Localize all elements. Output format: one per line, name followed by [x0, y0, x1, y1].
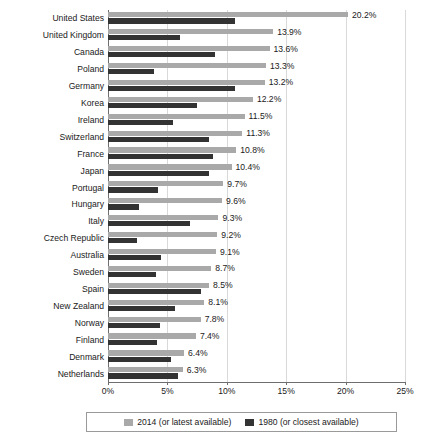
bar-series-2014: 12.2% — [108, 97, 253, 102]
bar-series-1980 — [108, 289, 201, 294]
bar-series-1980 — [108, 120, 173, 125]
bar-series-2014: 8.1% — [108, 300, 204, 305]
category-label: Japan — [81, 166, 104, 176]
chart-legend: 2014 (or latest available)1980 (or close… — [86, 412, 397, 432]
bar-value-label: 7.4% — [200, 331, 220, 341]
bar-value-label: 12.2% — [257, 94, 281, 104]
x-tick-mark — [227, 382, 228, 385]
bar-row: France10.8% — [108, 145, 405, 162]
bar-series-1980 — [108, 373, 178, 378]
bar-series-1980 — [108, 137, 209, 142]
category-label: France — [77, 149, 104, 159]
x-tick-label: 5% — [161, 386, 173, 396]
bar-value-label: 13.6% — [274, 44, 298, 54]
bar-row: Norway7.8% — [108, 314, 405, 331]
bar-row: Italy9.3% — [108, 213, 405, 230]
bar-series-2014: 7.8% — [108, 317, 201, 322]
category-label: New Zealand — [53, 301, 104, 311]
bar-chart: United States20.2%United Kingdom13.9%Can… — [0, 0, 435, 445]
bar-row: Korea12.2% — [108, 95, 405, 112]
x-tick-mark — [405, 382, 406, 385]
bar-series-2014: 6.3% — [108, 367, 183, 372]
bar-series-2014: 9.1% — [108, 249, 216, 254]
legend-swatch — [124, 419, 133, 426]
bar-series-1980 — [108, 69, 154, 74]
bar-value-label: 7.8% — [205, 314, 225, 324]
legend-label: 2014 (or latest available) — [137, 417, 231, 427]
category-label: Korea — [81, 98, 104, 108]
bar-series-2014: 10.4% — [108, 164, 232, 169]
bar-value-label: 8.5% — [213, 280, 233, 290]
bar-value-label: 20.2% — [352, 10, 376, 20]
bar-row: Switzerland11.3% — [108, 128, 405, 145]
bar-series-1980 — [108, 204, 139, 209]
bar-series-2014: 13.3% — [108, 63, 266, 68]
bar-series-1980 — [108, 187, 158, 192]
bar-series-2014: 7.4% — [108, 333, 196, 338]
legend-item[interactable]: 2014 (or latest available) — [124, 417, 231, 427]
bar-value-label: 11.5% — [249, 111, 273, 121]
bar-row: Germany13.2% — [108, 78, 405, 95]
x-axis-line — [108, 382, 405, 383]
bar-series-2014: 11.5% — [108, 114, 245, 119]
bar-value-label: 6.4% — [188, 348, 208, 358]
bar-series-1980 — [108, 221, 190, 226]
bar-series-1980 — [108, 238, 137, 243]
bar-row: Finland7.4% — [108, 331, 405, 348]
bar-series-1980 — [108, 171, 209, 176]
bar-series-2014: 8.7% — [108, 266, 211, 271]
category-label: Norway — [75, 318, 104, 328]
category-label: United States — [52, 13, 104, 23]
bar-value-label: 9.3% — [222, 213, 242, 223]
bar-value-label: 10.8% — [240, 145, 264, 155]
bar-series-2014: 13.9% — [108, 29, 273, 34]
bar-value-label: 8.7% — [215, 263, 235, 273]
category-label: Denmark — [69, 352, 104, 362]
bar-series-2014: 9.7% — [108, 181, 223, 186]
legend-item[interactable]: 1980 (or closest available) — [245, 417, 358, 427]
bar-value-label: 11.3% — [246, 128, 270, 138]
category-label: Netherlands — [58, 369, 104, 379]
bar-row: Hungary9.6% — [108, 196, 405, 213]
x-tick-label: 15% — [278, 386, 295, 396]
category-label: Switzerland — [60, 132, 104, 142]
bar-series-2014: 13.2% — [108, 80, 265, 85]
category-label: Poland — [77, 64, 104, 74]
bar-row: Australia9.1% — [108, 247, 405, 264]
bar-value-label: 13.2% — [269, 77, 293, 87]
bar-series-2014: 13.6% — [108, 46, 270, 51]
bar-series-1980 — [108, 323, 160, 328]
category-label: Hungary — [72, 199, 104, 209]
bar-row: United Kingdom13.9% — [108, 27, 405, 44]
bar-value-label: 8.1% — [208, 297, 228, 307]
bar-value-label: 6.3% — [187, 365, 207, 375]
x-tick-label: 20% — [337, 386, 354, 396]
bar-series-2014: 8.5% — [108, 283, 209, 288]
bar-series-2014: 9.3% — [108, 215, 218, 220]
bar-row: Poland13.3% — [108, 61, 405, 78]
x-tick-mark — [108, 382, 109, 385]
bar-row: Japan10.4% — [108, 162, 405, 179]
bar-series-1980 — [108, 255, 161, 260]
bar-series-1980 — [108, 154, 213, 159]
bar-series-1980 — [108, 86, 235, 91]
bar-series-2014: 6.4% — [108, 350, 184, 355]
bar-value-label: 13.3% — [270, 61, 294, 71]
bar-series-1980 — [108, 272, 156, 277]
category-label: Spain — [82, 284, 104, 294]
bar-row: Ireland11.5% — [108, 111, 405, 128]
bar-row: Netherlands6.3% — [108, 365, 405, 382]
bar-value-label: 9.6% — [226, 196, 246, 206]
legend-swatch — [245, 419, 254, 426]
bar-value-label: 9.2% — [221, 230, 241, 240]
category-label: Canada — [74, 47, 104, 57]
x-tick-mark — [346, 382, 347, 385]
bar-series-1980 — [108, 357, 171, 362]
bar-series-2014: 9.6% — [108, 198, 222, 203]
bar-row: New Zealand8.1% — [108, 297, 405, 314]
category-label: Finland — [76, 335, 104, 345]
category-label: Italy — [88, 216, 104, 226]
bar-series-2014: 9.2% — [108, 232, 217, 237]
bar-series-1980 — [108, 35, 180, 40]
bar-value-label: 13.9% — [277, 27, 301, 37]
